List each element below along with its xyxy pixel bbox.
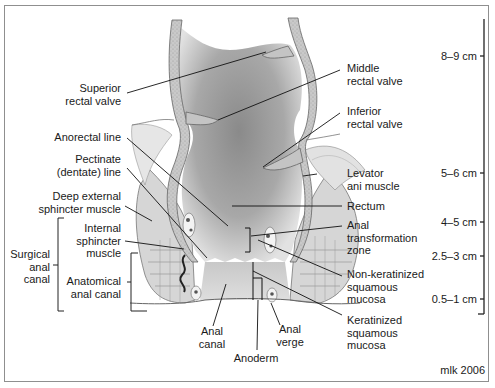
scale-label-2-5-3cm: 2.5–3 cm (432, 250, 477, 263)
scale-label-8-9cm: 8–9 cm (441, 50, 477, 63)
label-anatomical-anal-canal: Anatomical anal canal (67, 275, 121, 300)
label-surgical-anal-canal: Surgical anal canal (10, 248, 50, 286)
label-internal-sphincter: Internal sphincter muscle (76, 222, 121, 260)
label-anal-verge: Anal verge (270, 323, 310, 348)
label-keratinized-mucosa: Keratinized squamous mucosa (347, 314, 402, 352)
label-levator-ani-muscle: Levator ani muscle (347, 167, 400, 192)
label-deep-external-sphincter: Deep external sphincter muscle (38, 190, 121, 215)
scale-label-5-6cm: 5–6 cm (441, 167, 477, 180)
label-anorectal-line: Anorectal line (54, 131, 121, 144)
label-pectinate-line: Pectinate (dentate) line (57, 153, 121, 178)
left-pelvic-fascia (132, 119, 174, 125)
scale-label-4-5cm: 4–5 cm (441, 216, 477, 229)
label-anoderm: Anoderm (232, 352, 280, 365)
label-anal-canal: Anal canal (190, 325, 234, 350)
leader-anoderm (257, 300, 258, 350)
label-anal-transformation-zone: Anal transformation zone (347, 219, 417, 257)
right-pelvic-fascia (306, 134, 340, 140)
label-middle-rectal-valve: Middle rectal valve (347, 62, 403, 87)
label-inferior-rectal-valve: Inferior rectal valve (347, 105, 403, 130)
label-superior-rectal-valve: Superior rectal valve (65, 82, 121, 107)
label-non-keratinized-mucosa: Non-keratinized squamous mucosa (347, 268, 424, 306)
label-rectum: Rectum (347, 200, 385, 213)
figure-credit: mlk 2006 (440, 364, 485, 377)
leader-anal-verge (271, 303, 280, 325)
surgical-anal-canal-bracket (53, 218, 64, 311)
scale-label-0-5-1cm: 0.5–1 cm (432, 293, 477, 306)
depth-scale (478, 19, 484, 314)
